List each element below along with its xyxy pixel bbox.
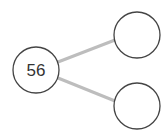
child-node-bottom[interactable] <box>114 83 160 129</box>
connector-bottom <box>58 78 115 101</box>
number-bond-diagram: 56 <box>0 0 166 139</box>
connector-top <box>58 40 115 62</box>
child-node-top[interactable] <box>114 12 160 58</box>
child-circle-bottom[interactable] <box>114 83 160 129</box>
root-node: 56 <box>13 47 59 93</box>
root-value: 56 <box>27 61 46 80</box>
child-circle-top[interactable] <box>114 12 160 58</box>
